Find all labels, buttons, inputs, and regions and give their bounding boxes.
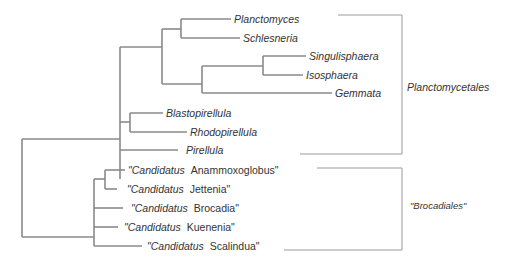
taxon-gemmata: Gemmata <box>335 87 381 99</box>
group-label-planctomycetales: Planctomycetales <box>407 81 489 93</box>
taxon-isosphaera: Isosphaera <box>306 69 358 81</box>
taxon-singulisphaera: Singulisphaera <box>309 50 378 62</box>
taxon-anammoxoglobus: "Candidatus Anammoxoglobus" <box>128 164 278 176</box>
brocadiales-bracket <box>284 168 402 250</box>
group-label-brocadiales: "Brocadiales" <box>410 200 466 211</box>
planctomycetales-bracket <box>300 15 402 154</box>
taxon-scalindua: "Candidatus Scalindua" <box>147 240 260 252</box>
taxon-brocadia: "Candidatus Brocadia" <box>131 202 239 214</box>
taxon-kuenenia: "Candidatus Kuenenia" <box>124 221 235 233</box>
taxon-rhodopirellula: Rhodopirellula <box>190 126 257 138</box>
taxon-schlesneria: Schlesneria <box>243 32 298 44</box>
taxon-blastopirellula: Blastopirellula <box>166 107 231 119</box>
taxon-planctomyces: Planctomyces <box>234 13 299 25</box>
taxon-pirellula: Pirellula <box>186 144 223 156</box>
taxon-jettenia: "Candidatus Jettenia" <box>127 183 230 195</box>
